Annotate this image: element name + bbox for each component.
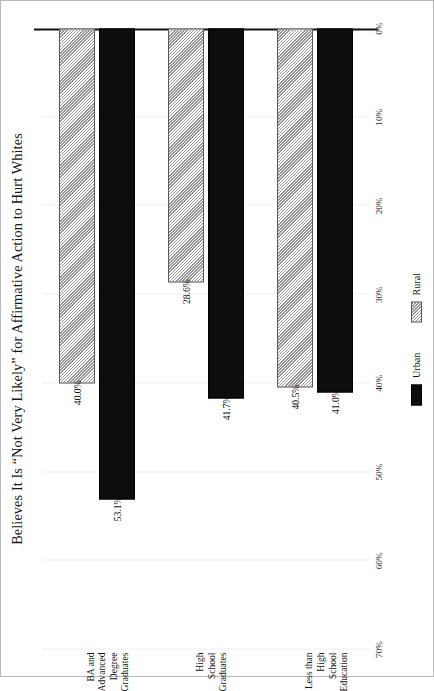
legend-swatch-icon bbox=[411, 301, 422, 322]
chart-title: Believes It Is “Not Very Likely” for Aff… bbox=[0, 0, 34, 677]
tick-label: 20% bbox=[374, 197, 384, 214]
value-axis-ticks: 0%10%20%30%40%50%60%70% bbox=[372, 28, 402, 649]
category-label: Less than High School Education bbox=[303, 652, 349, 691]
bar-rural[interactable] bbox=[59, 28, 95, 383]
legend-item-urban[interactable]: Urban bbox=[411, 352, 422, 404]
tick-label: 70% bbox=[374, 641, 384, 658]
legend-label: Urban bbox=[411, 352, 422, 377]
tick-label: 60% bbox=[374, 552, 384, 569]
bar-value-label: 41.0% bbox=[330, 389, 341, 434]
bar-value-label: 53.1% bbox=[111, 496, 122, 541]
tick-label: 30% bbox=[374, 286, 384, 303]
tick-label: 10% bbox=[374, 108, 384, 125]
bar-urban[interactable] bbox=[99, 28, 135, 499]
bar-rural[interactable] bbox=[277, 28, 313, 387]
category-axis-labels: Less than High School EducationHigh Scho… bbox=[42, 651, 370, 677]
bar-value-label: 40.5% bbox=[290, 384, 301, 429]
chart-legend: UrbanRural bbox=[402, 28, 430, 649]
tick-label: 40% bbox=[374, 374, 384, 391]
tick-label: 0% bbox=[374, 22, 384, 34]
legend-swatch-icon bbox=[411, 384, 422, 405]
bar-group: 41.7%28.6% bbox=[151, 28, 260, 649]
category-label: High School Graduates bbox=[194, 652, 229, 691]
bar-urban[interactable] bbox=[208, 28, 244, 398]
legend-item-rural[interactable]: Rural bbox=[411, 272, 422, 322]
bar-group: 53.1%40.0% bbox=[42, 28, 151, 649]
bar-value-label: 40.0% bbox=[71, 380, 82, 425]
category-label: BA and Advanced Degree Graduates bbox=[85, 652, 131, 691]
bar-rural[interactable] bbox=[168, 28, 204, 282]
bar-value-label: 41.7% bbox=[220, 395, 231, 440]
plot-area: 41.0%40.5%41.7%28.6%53.1%40.0% bbox=[42, 28, 370, 649]
tick-label: 50% bbox=[374, 463, 384, 480]
bar-group: 41.0%40.5% bbox=[261, 28, 370, 649]
bar-urban[interactable] bbox=[317, 28, 353, 392]
legend-label: Rural bbox=[411, 272, 422, 295]
bar-value-label: 28.6% bbox=[180, 279, 191, 324]
